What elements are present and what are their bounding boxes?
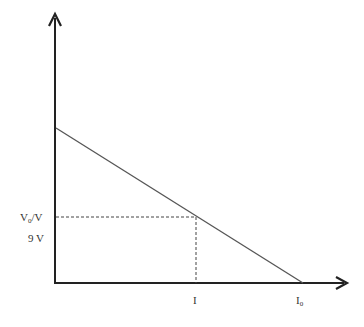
- x-label-i: I: [193, 294, 197, 306]
- y-label-v0-per-v: V0/V: [20, 211, 43, 225]
- y-label-9v: 9 V: [28, 232, 44, 244]
- vi-graph: V0/V 9 V I I0: [0, 0, 364, 327]
- x-label-i0: I0: [296, 294, 304, 308]
- vi-line: [56, 128, 303, 283]
